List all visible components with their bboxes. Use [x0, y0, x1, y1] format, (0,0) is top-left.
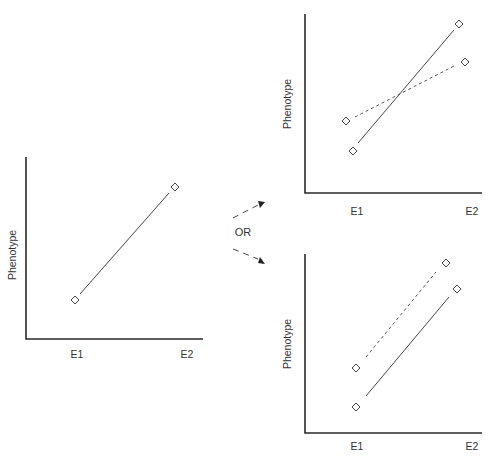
left-chart-solid-line — [80, 193, 169, 294]
diamond-marker-icon — [171, 183, 179, 191]
left-chart-ylabel: Phenotype — [6, 230, 18, 280]
or-connector: OR — [233, 201, 265, 264]
top-right-chart-axes — [305, 14, 482, 193]
left-chart: Phenotype E1 E2 — [6, 157, 203, 360]
diamond-marker-icon — [342, 117, 350, 125]
top-right-chart-xtick-e2: E2 — [466, 205, 479, 217]
arrow-down-icon — [258, 257, 265, 264]
diamond-marker-icon — [442, 259, 450, 267]
diamond-marker-icon — [455, 20, 463, 28]
bottom-right-chart-xtick-e2: E2 — [466, 440, 479, 452]
bottom-right-chart-axes — [305, 254, 482, 433]
diamond-marker-icon — [352, 403, 360, 411]
bottom-right-chart-ylabel: Phenotype — [281, 319, 293, 369]
diamond-marker-icon — [352, 364, 360, 372]
top-right-chart: Phenotype E1 E2 — [281, 14, 482, 217]
bottom-right-chart-xtick-e1: E1 — [351, 440, 364, 452]
top-right-solid-line — [358, 30, 454, 143]
diamond-marker-icon — [71, 296, 79, 304]
top-right-dashed-line — [355, 65, 456, 117]
left-chart-xtick-e1: E1 — [71, 348, 84, 360]
bottom-right-solid-line — [366, 297, 449, 396]
or-label: OR — [235, 226, 252, 238]
bottom-right-chart: Phenotype E1 E2 — [281, 254, 482, 452]
bottom-right-dashed-line — [366, 272, 436, 357]
top-right-chart-ylabel: Phenotype — [281, 79, 293, 129]
left-chart-xtick-e2: E2 — [181, 348, 194, 360]
arrow-up-icon — [258, 201, 265, 208]
figure-canvas: Phenotype E1 E2 OR Phenotype E1 E2 Pheno… — [0, 0, 488, 457]
top-right-chart-xtick-e1: E1 — [351, 205, 364, 217]
diamond-marker-icon — [461, 58, 469, 66]
lower-arrow-line — [233, 249, 258, 259]
diamond-marker-icon — [453, 285, 461, 293]
diamond-marker-icon — [349, 147, 357, 155]
upper-arrow-line — [233, 205, 258, 218]
